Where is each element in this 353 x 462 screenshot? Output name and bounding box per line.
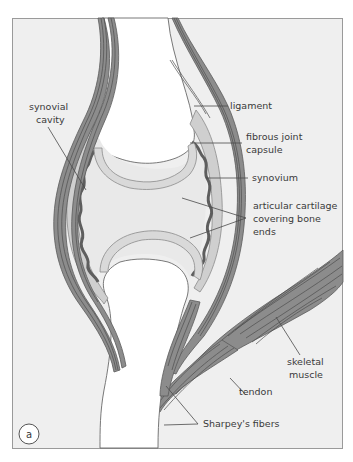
label-fibrous-capsule-2: capsule	[246, 144, 283, 155]
label-cartilage-3: ends	[253, 226, 276, 237]
label-sharpeys-fibers: Sharpey's fibers	[203, 418, 280, 429]
label-synovium: synovium	[252, 172, 298, 183]
label-skeletal-muscle-2: muscle	[289, 369, 323, 380]
label-ligament: ligament	[230, 100, 272, 111]
label-cartilage-2: covering bone	[253, 213, 321, 224]
label-fibrous-capsule-1: fibrous joint	[246, 131, 303, 142]
label-tendon: tendon	[239, 386, 272, 397]
label-cartilage-1: articular cartilage	[253, 200, 338, 211]
label-skeletal-muscle-1: skeletal	[287, 356, 324, 367]
synovial-joint-diagram: synovial cavity ligament fibrous joint c…	[0, 0, 353, 462]
label-synovial-cavity-1: synovial	[29, 101, 68, 112]
panel-label-text: a	[26, 429, 32, 440]
label-synovial-cavity-2: cavity	[36, 114, 65, 125]
panel-label: a	[19, 424, 39, 444]
